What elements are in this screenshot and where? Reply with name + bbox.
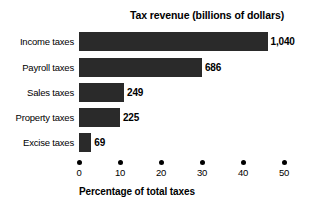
category-label-payroll-taxes: Payroll taxes	[0, 58, 74, 77]
x-tick-label: 30	[187, 168, 217, 178]
bar-property-taxes	[79, 108, 120, 127]
x-tick-30: 30	[187, 160, 217, 178]
bar-value-property-taxes: 225	[120, 108, 139, 127]
tick-dot-icon	[241, 160, 246, 165]
bar-track-payroll-taxes: 686	[79, 58, 317, 77]
tick-dot-icon	[282, 160, 287, 165]
bar-chart: Tax revenue (billions of dollars) Income…	[0, 0, 317, 197]
x-tick-40: 40	[228, 160, 258, 178]
tick-dot-icon	[118, 160, 123, 165]
x-axis: 0 10 20 30 40 50 Percentage of total tax…	[0, 160, 317, 197]
tick-dot-icon	[200, 160, 205, 165]
bar-track-property-taxes: 225	[79, 108, 317, 127]
category-label-income-taxes: Income taxes	[0, 32, 74, 51]
x-axis-title: Percentage of total taxes	[79, 186, 195, 197]
bar-track-income-taxes: 1,040	[79, 32, 317, 51]
tick-dot-icon	[159, 160, 164, 165]
table-row: Property taxes 225	[0, 108, 317, 127]
bar-value-payroll-taxes: 686	[202, 58, 221, 77]
x-tick-label: 50	[269, 168, 299, 178]
category-label-excise-taxes: Excise taxes	[0, 133, 74, 152]
x-tick-label: 0	[64, 168, 94, 178]
bar-payroll-taxes	[79, 58, 202, 77]
bar-excise-taxes	[79, 133, 91, 152]
bar-value-income-taxes: 1,040	[268, 32, 295, 51]
plot-area: Income taxes 1,040 Payroll taxes 686 Sal…	[0, 30, 317, 160]
bar-sales-taxes	[79, 83, 124, 102]
table-row: Payroll taxes 686	[0, 58, 317, 77]
x-tick-20: 20	[146, 160, 176, 178]
bar-track-sales-taxes: 249	[79, 83, 317, 102]
x-tick-10: 10	[105, 160, 135, 178]
x-tick-label: 20	[146, 168, 176, 178]
x-tick-50: 50	[269, 160, 299, 178]
table-row: Income taxes 1,040	[0, 32, 317, 51]
bar-track-excise-taxes: 69	[79, 133, 317, 152]
table-row: Excise taxes 69	[0, 133, 317, 152]
bar-income-taxes	[79, 32, 268, 51]
category-label-property-taxes: Property taxes	[0, 108, 74, 127]
tick-dot-icon	[77, 160, 82, 165]
table-row: Sales taxes 249	[0, 83, 317, 102]
x-tick-0: 0	[64, 160, 94, 178]
bar-value-excise-taxes: 69	[91, 133, 105, 152]
x-tick-label: 10	[105, 168, 135, 178]
chart-title: Tax revenue (billions of dollars)	[130, 9, 315, 21]
bar-value-sales-taxes: 249	[124, 83, 143, 102]
category-label-sales-taxes: Sales taxes	[0, 83, 74, 102]
x-tick-label: 40	[228, 168, 258, 178]
